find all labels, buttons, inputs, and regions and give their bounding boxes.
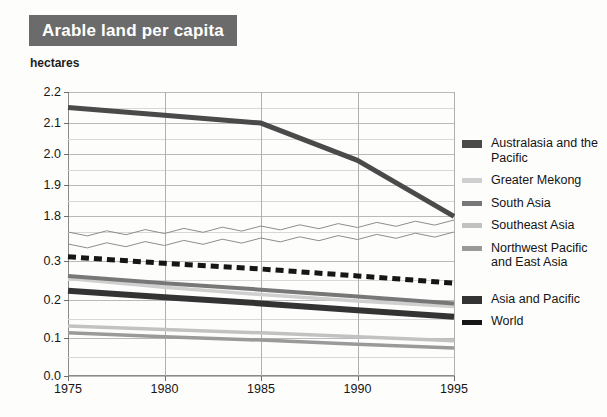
series-line — [68, 108, 454, 217]
legend-item[interactable]: South Asia — [462, 196, 602, 211]
page-title: Arable land per capita — [42, 21, 224, 41]
legend-item[interactable]: Greater Mekong — [462, 173, 602, 188]
legend-swatch — [462, 320, 482, 325]
legend-swatch — [462, 246, 482, 251]
series-lines — [68, 92, 454, 376]
x-axis-tick-mark — [261, 376, 262, 381]
legend-swatch — [462, 140, 482, 148]
legend-swatch — [462, 201, 482, 206]
y-axis-tick-label: 0.2 — [44, 293, 61, 307]
gridline-vertical — [454, 92, 455, 376]
legend-swatch — [462, 223, 482, 228]
legend-item[interactable]: Australasia and the Pacific — [462, 136, 602, 165]
plot-area: 2.22.12.01.91.80.30.20.10.0 197519801985… — [68, 92, 454, 376]
y-axis-unit-label: hectares — [30, 56, 79, 70]
legend-label: Northwest Pacific and East Asia — [491, 241, 602, 270]
legend-label: Southeast Asia — [491, 218, 574, 233]
chart-title-banner: Arable land per capita — [29, 15, 237, 46]
y-axis-tick-label: 0.1 — [44, 331, 61, 345]
y-axis-tick-label: 0.3 — [44, 254, 61, 268]
x-axis-tick-label: 1990 — [344, 382, 372, 396]
y-axis-tick-label: 0.0 — [44, 369, 61, 383]
chart-legend: Australasia and the PacificGreater Mekon… — [462, 136, 602, 337]
y-axis-tick-label: 2.0 — [44, 147, 61, 161]
y-axis-tick-label: 1.8 — [44, 209, 61, 223]
y-axis-tick-label: 2.2 — [44, 85, 61, 99]
legend-item[interactable]: World — [462, 314, 602, 329]
x-axis-tick-mark — [454, 376, 455, 381]
series-line — [68, 333, 454, 348]
x-axis-tick-label: 1980 — [151, 382, 179, 396]
x-axis-tick-label: 1975 — [54, 382, 82, 396]
legend-item[interactable]: Northwest Pacific and East Asia — [462, 241, 602, 270]
legend-swatch — [462, 296, 482, 304]
axis-break-marker — [68, 220, 454, 236]
x-axis-tick-mark — [358, 376, 359, 381]
x-axis-tick-label: 1995 — [440, 382, 468, 396]
x-axis-tick-mark — [68, 376, 69, 381]
legend-label: Greater Mekong — [491, 173, 581, 188]
legend-swatch — [462, 178, 482, 183]
legend-label: Asia and Pacific — [491, 292, 580, 307]
legend-label: Australasia and the Pacific — [491, 136, 602, 165]
legend-label: South Asia — [491, 196, 551, 211]
legend-label: World — [491, 314, 523, 329]
y-axis-tick-label: 2.1 — [44, 116, 61, 130]
legend-item[interactable]: Southeast Asia — [462, 218, 602, 233]
y-axis-tick-label: 1.9 — [44, 178, 61, 192]
x-axis-tick-label: 1985 — [247, 382, 275, 396]
chart-page: Arable land per capita hectares 2.22.12.… — [0, 0, 607, 417]
legend-item[interactable]: Asia and Pacific — [462, 292, 602, 307]
x-axis-tick-mark — [165, 376, 166, 381]
